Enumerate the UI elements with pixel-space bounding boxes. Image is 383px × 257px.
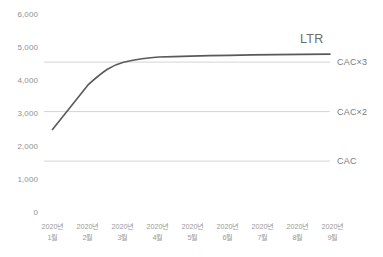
line-chart: 6,000 5,000 4,000 3,000 2,000 1,000 0 LT… xyxy=(0,0,383,257)
x-axis-tick-8-year: 2020년 xyxy=(281,221,315,232)
x-axis-tick-3: 2020년 3월 xyxy=(106,221,140,243)
x-axis-tick-7-month: 7월 xyxy=(246,232,280,243)
x-axis-tick-8: 2020년 8월 xyxy=(281,221,315,243)
x-axis-tick-3-month: 3월 xyxy=(106,232,140,243)
series-label-ltr: LTR xyxy=(300,32,324,46)
x-axis-tick-6-month: 6월 xyxy=(211,232,245,243)
x-axis-tick-8-month: 8월 xyxy=(281,232,315,243)
x-axis-tick-7-year: 2020년 xyxy=(246,221,280,232)
x-axis-tick-9-month: 9월 xyxy=(316,232,350,243)
x-axis-tick-3-year: 2020년 xyxy=(106,221,140,232)
x-axis-tick-5-month: 5월 xyxy=(176,232,210,243)
series-ltr-line xyxy=(53,54,331,129)
x-axis-tick-9: 2020년 9월 xyxy=(316,221,350,243)
x-axis-tick-2-year: 2020년 xyxy=(71,221,105,232)
plot-area xyxy=(0,0,383,257)
reference-lines xyxy=(44,62,330,161)
series-label-cac3: CAC×3 xyxy=(337,57,367,67)
x-axis-tick-4-month: 4월 xyxy=(141,232,175,243)
x-axis-tick-4: 2020년 4월 xyxy=(141,221,175,243)
series-ltr xyxy=(53,54,331,129)
x-axis-tick-4-year: 2020년 xyxy=(141,221,175,232)
x-axis-tick-7: 2020년 7월 xyxy=(246,221,280,243)
x-axis-tick-1: 2020년 1월 xyxy=(36,221,70,243)
x-axis-tick-5-year: 2020년 xyxy=(176,221,210,232)
x-axis-tick-2: 2020년 2월 xyxy=(71,221,105,243)
series-label-cac2: CAC×2 xyxy=(337,107,367,117)
x-axis-tick-1-month: 1월 xyxy=(36,232,70,243)
x-axis-tick-5: 2020년 5월 xyxy=(176,221,210,243)
x-axis-tick-2-month: 2월 xyxy=(71,232,105,243)
x-axis-tick-1-year: 2020년 xyxy=(36,221,70,232)
x-axis-tick-6: 2020년 6월 xyxy=(211,221,245,243)
x-axis-tick-9-year: 2020년 xyxy=(316,221,350,232)
x-axis-tick-6-year: 2020년 xyxy=(211,221,245,232)
series-label-cac: CAC xyxy=(337,156,357,166)
